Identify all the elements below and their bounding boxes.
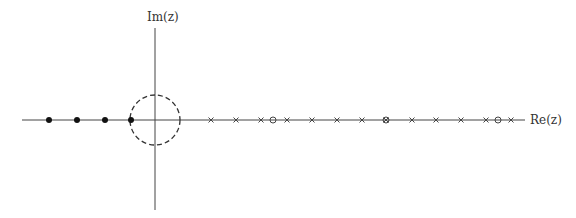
- filled-dot-icon: [128, 117, 134, 123]
- filled-dot-icon: [102, 117, 108, 123]
- filled-dot-icon: [74, 117, 80, 123]
- axes: [22, 28, 525, 210]
- pole-zero-diagram: Im(z) Re(z): [0, 0, 576, 218]
- y-axis-label: Im(z): [147, 10, 179, 24]
- x-axis-label: Re(z): [530, 113, 562, 127]
- filled-dot-icon: [46, 117, 52, 123]
